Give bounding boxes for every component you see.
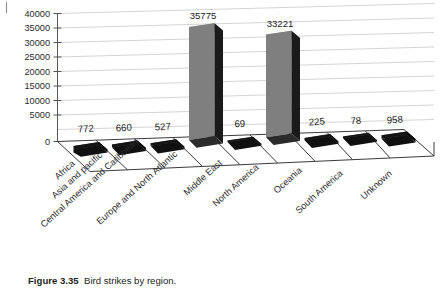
bar-chart-3d: 40000 35000 30000 25000 20000 15000 1000… xyxy=(0,0,447,250)
figure-container: 40000 35000 30000 25000 20000 15000 1000… xyxy=(0,0,447,306)
y-tick-label-10000: 10000 xyxy=(24,96,50,106)
gridline-40000 xyxy=(58,4,435,14)
gridline-0 xyxy=(58,120,435,130)
gridline-15000 xyxy=(58,76,435,86)
gridline-5000 xyxy=(58,105,435,115)
value-label-asia-and-pacific: 660 xyxy=(115,121,132,133)
figure-caption-text: Bird strikes by region. xyxy=(84,275,176,286)
bar-europe-front xyxy=(189,23,215,140)
gridline-35000 xyxy=(58,18,435,28)
value-label-oceania: 225 xyxy=(308,115,325,127)
gridline-10000 xyxy=(58,91,435,101)
value-label-africa: 772 xyxy=(77,122,94,134)
gridline-30000 xyxy=(58,33,435,43)
value-label-europe-and-north-atlantic: 35775 xyxy=(190,10,217,21)
bar-north-america-side xyxy=(292,31,301,141)
y-axis-tick-labels: 40000 35000 30000 25000 20000 15000 1000… xyxy=(24,9,50,147)
bar-north-america[interactable] xyxy=(266,31,300,145)
y-tick-label-0: 0 xyxy=(45,137,50,147)
gridline-20000 xyxy=(58,62,435,72)
value-label-middle-east: 69 xyxy=(234,118,245,130)
gridlines-group xyxy=(58,4,435,130)
figure-caption: Figure 3.35 Bird strikes by region. xyxy=(28,274,428,287)
y-tick-label-15000: 15000 xyxy=(24,81,50,91)
value-label-unknown: 958 xyxy=(386,113,403,125)
bar-europe-side xyxy=(215,23,224,143)
bar-north-america-front xyxy=(266,31,292,138)
value-label-central-america-and-caribbean: 527 xyxy=(154,120,171,132)
y-tick-label-5000: 5000 xyxy=(30,110,50,120)
y-tick-label-40000: 40000 xyxy=(24,9,50,19)
y-axis xyxy=(54,14,62,142)
cat-label-oceania: Oceania xyxy=(272,165,305,196)
value-label-north-america: 33221 xyxy=(267,18,294,29)
value-label-south-america: 78 xyxy=(350,115,361,127)
value-labels-group: 772 660 527 35775 69 33221 225 78 958 xyxy=(77,10,403,135)
cat-label-unknown: Unknown xyxy=(359,168,394,201)
y-tick-label-20000: 20000 xyxy=(24,67,50,77)
y-tick-label-30000: 30000 xyxy=(24,38,50,48)
y-tick-label-35000: 35000 xyxy=(24,23,50,33)
figure-number: Figure 3.35 xyxy=(28,275,79,286)
bar-europe-and-north-atlantic[interactable] xyxy=(189,23,223,148)
gridline-25000 xyxy=(58,47,435,57)
y-tick-label-25000: 25000 xyxy=(24,52,50,62)
